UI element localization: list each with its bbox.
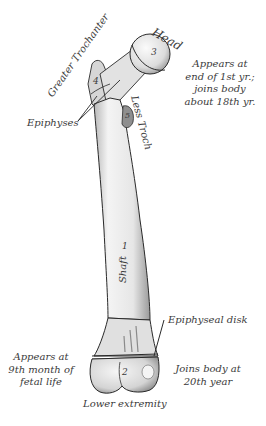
epiphyseal-disk-leader bbox=[154, 320, 164, 356]
number-lower-extremity: 2 bbox=[122, 366, 128, 378]
number-lesser-trochanter: 5 bbox=[125, 110, 130, 122]
note-lower-right: Joins body at 20th year bbox=[170, 363, 246, 388]
number-head: 3 bbox=[151, 46, 157, 58]
label-shaft: Shaft bbox=[117, 256, 129, 283]
number-greater-trochanter: 4 bbox=[93, 75, 99, 87]
lower-shaft-flare bbox=[94, 318, 158, 356]
note-upper-right: Appears at end of 1st yr.; joins body ab… bbox=[180, 58, 260, 108]
label-epiphyses: Epiphyses bbox=[27, 117, 79, 129]
note-lower-left: Appears at 9th month of fetal life bbox=[4, 351, 78, 389]
number-shaft: 1 bbox=[122, 240, 128, 252]
label-lower-extremity: Lower extremity bbox=[83, 398, 167, 410]
label-epiphyseal-disk: Epiphyseal disk bbox=[168, 314, 248, 326]
